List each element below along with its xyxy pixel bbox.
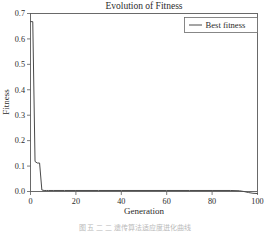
y-tick-label: 0.4 (15, 86, 25, 95)
y-axis-label: Fitness (1, 89, 11, 115)
x-tick-label: 20 (72, 197, 80, 206)
x-tick-label: 60 (163, 197, 171, 206)
chart-legend: Best fitness (185, 18, 258, 33)
y-tick-label: 0.7 (15, 9, 25, 18)
y-tick-label: 0.1 (15, 162, 25, 171)
figure-caption: 图 五 二 二 遗传算法适应度进化曲线 (0, 222, 269, 235)
y-tick-label: 0.3 (15, 111, 25, 120)
x-tick-label: 100 (251, 197, 263, 206)
chart-title: Evolution of Fitness (105, 1, 182, 11)
x-axis-ticks: 0 20 40 60 80 100 (28, 192, 263, 207)
y-tick-label: 0.5 (15, 60, 25, 69)
x-tick-label: 0 (28, 197, 32, 206)
x-tick-label: 40 (117, 197, 125, 206)
y-tick-label: 0.2 (15, 136, 25, 145)
x-axis-label: Generation (124, 206, 164, 216)
legend-label-best-fitness: Best fitness (206, 20, 247, 30)
figure-container: Evolution of Fitness Fitness Generation … (0, 0, 269, 235)
plot-frame (31, 14, 258, 192)
y-tick-label: 0.0 (15, 187, 25, 196)
fitness-evolution-chart: Evolution of Fitness Fitness Generation … (0, 0, 269, 220)
best-fitness-line (31, 22, 258, 194)
y-axis-ticks: 0.0 0.1 0.2 0.3 0.4 0.5 0.6 0.7 (15, 9, 31, 196)
x-tick-label: 80 (208, 197, 216, 206)
y-tick-label: 0.6 (15, 35, 25, 44)
